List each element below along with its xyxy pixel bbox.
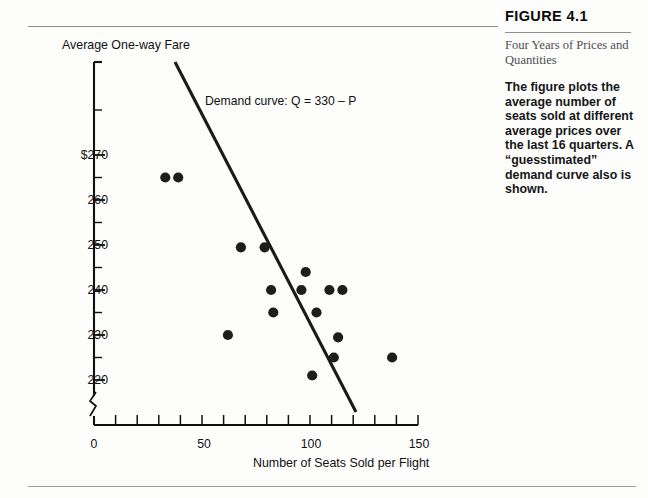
figure-title-rule bbox=[505, 32, 631, 33]
data-point bbox=[260, 242, 270, 252]
data-point bbox=[160, 172, 170, 182]
data-point bbox=[236, 242, 246, 252]
data-point-group bbox=[160, 172, 397, 380]
data-point bbox=[387, 352, 397, 362]
figure-subtitle: Four Years of Prices and Quantities bbox=[505, 38, 637, 68]
axis-break-mark bbox=[90, 392, 96, 416]
figure-number-label: FIGURE 4.1 bbox=[505, 8, 588, 24]
data-point bbox=[266, 285, 276, 295]
data-point bbox=[307, 370, 317, 380]
data-point bbox=[268, 307, 278, 317]
scatter-chart: Average One-way Fare Number of Seats Sol… bbox=[0, 0, 500, 498]
data-point bbox=[223, 330, 233, 340]
demand-curve-line bbox=[175, 62, 356, 412]
data-point bbox=[337, 285, 347, 295]
x-minor-ticks bbox=[116, 415, 418, 425]
data-point bbox=[173, 172, 183, 182]
data-point bbox=[311, 307, 321, 317]
data-point bbox=[324, 285, 334, 295]
data-point bbox=[333, 332, 343, 342]
y-minor-ticks bbox=[94, 110, 102, 358]
data-point bbox=[329, 352, 339, 362]
figure-page: FIGURE 4.1 Four Years of Prices and Quan… bbox=[0, 0, 648, 498]
chart-canvas bbox=[0, 0, 500, 498]
figure-caption-body: The figure plots the average number of s… bbox=[505, 80, 639, 197]
data-point bbox=[296, 285, 306, 295]
data-point bbox=[301, 267, 311, 277]
